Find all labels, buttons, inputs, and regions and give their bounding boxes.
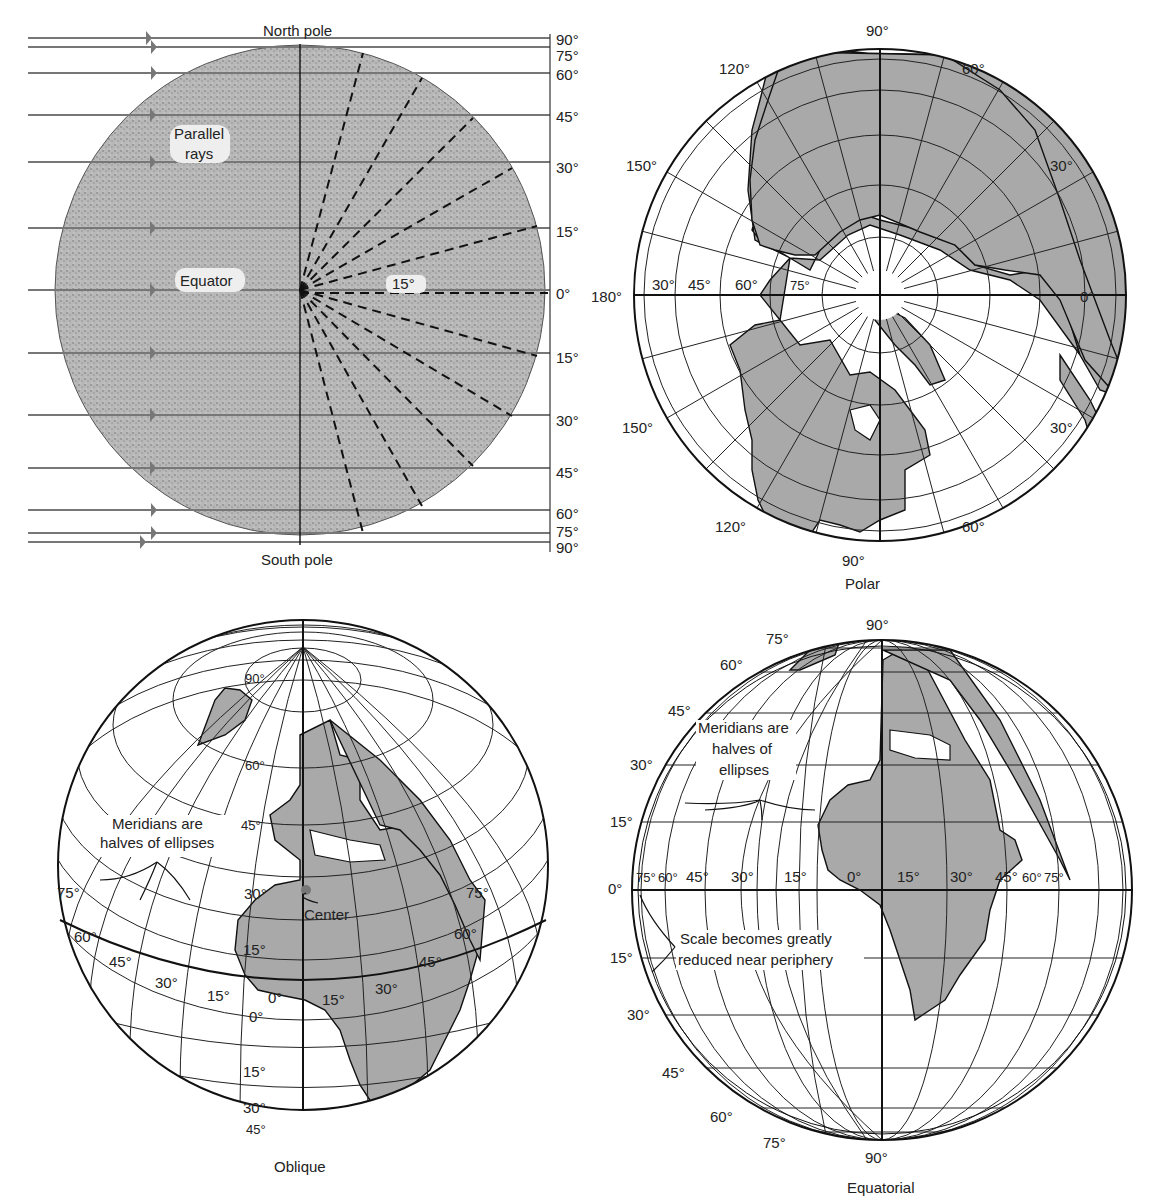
svg-text:reduced near periphery: reduced near periphery (678, 951, 834, 968)
svg-text:60°: 60° (74, 928, 97, 945)
svg-text:45°: 45° (995, 868, 1018, 885)
svg-text:30°: 30° (375, 980, 398, 997)
oblique-panel: Meridians are halves of ellipses Center … (33, 620, 573, 1175)
north-america-landmass (730, 320, 930, 540)
svg-text:60°: 60° (720, 656, 743, 673)
svg-text:45°: 45° (419, 953, 442, 970)
svg-text:60°: 60° (735, 276, 758, 293)
svg-text:75°: 75° (790, 278, 810, 293)
svg-text:75°: 75° (556, 47, 579, 64)
svg-text:30°: 30° (731, 868, 754, 885)
svg-text:150°: 150° (626, 157, 657, 174)
svg-text:30°: 30° (1050, 157, 1073, 174)
svg-text:15°: 15° (610, 813, 633, 830)
svg-text:60°: 60° (962, 60, 985, 77)
svg-text:30°: 30° (1050, 419, 1073, 436)
svg-text:75°: 75° (466, 884, 489, 901)
equatorial-panel: Meridians are halves of ellipses Scale b… (608, 616, 1134, 1196)
svg-text:75°: 75° (1044, 870, 1064, 885)
svg-text:halves of ellipses: halves of ellipses (100, 834, 214, 851)
svg-text:45°: 45° (109, 953, 132, 970)
svg-text:15°: 15° (610, 949, 633, 966)
svg-text:30°: 30° (244, 885, 267, 902)
svg-text:60°: 60° (556, 505, 579, 522)
svg-text:0°: 0° (249, 1008, 263, 1025)
svg-text:Scale becomes greatly: Scale becomes greatly (680, 930, 832, 947)
svg-text:60°: 60° (710, 1108, 733, 1125)
svg-text:180°: 180° (591, 288, 622, 305)
svg-text:90°: 90° (866, 22, 889, 39)
svg-text:ellipses: ellipses (719, 761, 769, 778)
svg-text:Meridians are: Meridians are (112, 815, 203, 832)
parallel-label: Parallel (174, 125, 224, 142)
svg-text:45°: 45° (668, 702, 691, 719)
svg-text:45°: 45° (688, 276, 711, 293)
svg-text:15°: 15° (897, 868, 920, 885)
svg-text:60°: 60° (658, 870, 678, 885)
svg-text:30°: 30° (556, 412, 579, 429)
svg-text:60°: 60° (1022, 870, 1042, 885)
svg-text:0°: 0° (608, 880, 622, 897)
svg-text:30°: 30° (630, 756, 653, 773)
svg-text:120°: 120° (715, 518, 746, 535)
svg-text:30°: 30° (556, 159, 579, 176)
angle-label: 15° (392, 275, 415, 292)
svg-text:75°: 75° (766, 630, 789, 647)
svg-text:30°: 30° (155, 974, 178, 991)
rays-label: rays (185, 145, 213, 162)
polar-caption: Polar (845, 575, 880, 592)
svg-text:15°: 15° (556, 223, 579, 240)
svg-text:45°: 45° (556, 108, 579, 125)
svg-text:60°: 60° (556, 66, 579, 83)
svg-text:15°: 15° (243, 941, 266, 958)
svg-text:75°: 75° (57, 884, 80, 901)
equatorial-caption: Equatorial (847, 1179, 915, 1196)
svg-text:30°: 30° (627, 1006, 650, 1023)
svg-text:60°: 60° (962, 518, 985, 535)
svg-text:150°: 150° (622, 419, 653, 436)
svg-text:75°: 75° (763, 1134, 786, 1151)
svg-text:30°: 30° (950, 868, 973, 885)
svg-text:15°: 15° (784, 868, 807, 885)
north-pole-label: North pole (263, 22, 332, 39)
svg-text:0°: 0° (847, 868, 861, 885)
svg-text:15°: 15° (207, 987, 230, 1004)
svg-text:90°: 90° (245, 671, 265, 686)
svg-text:15°: 15° (243, 1063, 266, 1080)
svg-text:0°: 0° (556, 285, 570, 302)
svg-text:0°: 0° (1080, 288, 1094, 305)
svg-text:75°: 75° (636, 870, 656, 885)
svg-text:45°: 45° (662, 1064, 685, 1081)
svg-text:45°: 45° (556, 464, 579, 481)
scale-labels: 90° 75° 60° 45° 30° 15° 0° 15° 30° 45° 6… (556, 31, 579, 556)
equator-label: Equator (180, 272, 233, 289)
svg-text:30°: 30° (243, 1099, 266, 1116)
svg-text:120°: 120° (719, 60, 750, 77)
svg-text:90°: 90° (842, 552, 865, 569)
center-label: Center (304, 906, 349, 923)
svg-text:15°: 15° (322, 991, 345, 1008)
svg-text:45°: 45° (686, 868, 709, 885)
svg-text:90°: 90° (556, 539, 579, 556)
svg-text:75°: 75° (556, 523, 579, 540)
polar-panel: 90° 120° 60° 150° 30° 180° 0° 150° 30° 1… (591, 22, 1130, 592)
svg-text:60°: 60° (245, 758, 265, 773)
svg-text:90°: 90° (556, 31, 579, 48)
svg-text:45°: 45° (246, 1122, 266, 1137)
oblique-caption: Oblique (274, 1158, 326, 1175)
svg-text:30°: 30° (652, 276, 675, 293)
south-pole-label: South pole (261, 551, 333, 568)
svg-text:90°: 90° (866, 616, 889, 633)
svg-text:45°: 45° (241, 818, 261, 833)
svg-text:halves of: halves of (712, 740, 773, 757)
rays-panel: North pole South pole Parallel rays Equa… (28, 22, 579, 568)
svg-text:15°: 15° (556, 349, 579, 366)
svg-text:Meridians are: Meridians are (698, 719, 789, 736)
svg-text:60°: 60° (454, 925, 477, 942)
svg-text:90°: 90° (865, 1149, 888, 1166)
svg-text:0°: 0° (268, 989, 282, 1006)
projection-figure: North pole South pole Parallel rays Equa… (0, 0, 1162, 1204)
